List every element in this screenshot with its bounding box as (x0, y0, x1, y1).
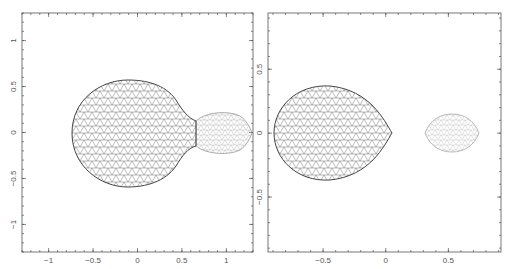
right-primary-lobe (274, 86, 392, 180)
left-secondary-lobe (196, 113, 252, 154)
x-tick-label: 0 (384, 256, 389, 265)
figure: −1−0.500.5110.50−0.5−1 −0.500.50.50−0.5 (0, 0, 511, 269)
y-tick-label: −0.5 (255, 189, 264, 205)
x-tick-label: 0.5 (443, 256, 455, 265)
y-tick-label: 0.5 (9, 80, 18, 92)
x-tick-label: 1 (224, 256, 229, 265)
x-tick-label: 0.5 (176, 256, 188, 265)
y-tick-label: −0.5 (9, 170, 18, 186)
left-primary-lobe (72, 80, 196, 187)
x-tick-label: −1 (44, 256, 54, 265)
y-tick-label: 0 (9, 130, 18, 135)
y-tick-label: −1 (9, 219, 18, 229)
left-panel: −1−0.500.5110.50−0.5−1 (9, 13, 253, 265)
x-tick-label: 0 (135, 256, 140, 265)
x-tick-label: −0.5 (315, 256, 331, 265)
y-tick-label: 0.5 (255, 63, 264, 75)
right-secondary-lobe (425, 114, 479, 152)
y-tick-label: 0 (255, 130, 264, 135)
right-panel: −0.500.50.50−0.5 (255, 13, 501, 265)
x-tick-label: −0.5 (85, 256, 101, 265)
y-tick-label: 1 (9, 38, 18, 43)
